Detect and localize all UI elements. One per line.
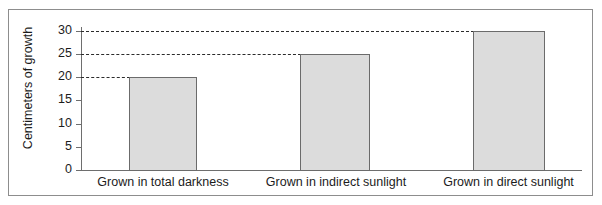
x-axis-label-category-3: Grown in direct sunlight <box>427 175 590 190</box>
y-axis-tick-15 <box>76 100 82 101</box>
y-axis-tick-label-20: 20 <box>48 70 72 83</box>
y-axis-tick-label-10: 10 <box>48 117 72 130</box>
y-axis-tick-label-0: 0 <box>48 163 72 176</box>
y-axis-line <box>81 27 82 171</box>
leader-line-bar-2 <box>81 54 301 55</box>
x-axis-label-category-1: Grown in total darkness <box>83 175 243 190</box>
y-axis-tick-label-5: 5 <box>48 140 72 153</box>
y-axis-title: Centimeters of growth <box>21 13 35 163</box>
bar-grown-in-indirect-sunlight <box>300 54 370 171</box>
figure-container: Centimeters of growth 30 25 20 15 10 5 <box>0 0 602 205</box>
y-axis-tick-label-30: 30 <box>48 24 72 37</box>
bar-chart-plot-area: Centimeters of growth 30 25 20 15 10 5 <box>0 0 602 205</box>
y-axis-tick-label-25: 25 <box>48 47 72 60</box>
bar-grown-in-direct-sunlight <box>473 31 545 171</box>
y-axis-tick-5 <box>76 147 82 148</box>
y-axis-tick-0 <box>76 170 82 171</box>
y-axis-tick-label-15: 15 <box>48 93 72 106</box>
bar-grown-in-total-darkness <box>129 77 197 171</box>
leader-line-bar-3 <box>81 31 474 32</box>
leader-line-bar-1 <box>81 77 130 78</box>
x-axis-label-category-2: Grown in indirect sunlight <box>253 175 419 190</box>
y-axis-tick-10 <box>76 124 82 125</box>
